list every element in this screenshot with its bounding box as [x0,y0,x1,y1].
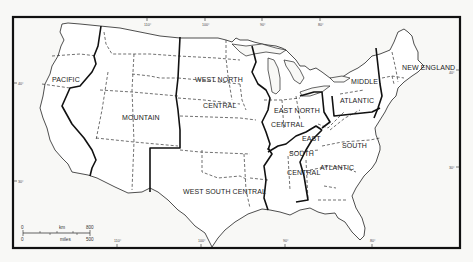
svg-text:30°: 30° [18,180,24,184]
svg-text:100°: 100° [202,23,210,27]
region-label-south-atlantic-2: ATLANTIC [320,164,354,171]
region-label-west-north-central-2: CENTRAL [203,102,236,109]
svg-text:80°: 80° [318,23,324,27]
svg-text:0: 0 [21,237,24,242]
svg-text:110°: 110° [114,239,122,243]
us-outline [40,23,424,247]
us-census-divisions-map: PACIFIC MOUNTAIN WEST NORTH CENTRAL WEST… [0,0,473,262]
scale-bar: 0 km 800 0 miles 500 [21,225,94,242]
svg-text:0: 0 [21,225,24,230]
left-ticks: 40° 30° [13,82,24,184]
region-label-new-england: NEW ENGLAND [402,64,455,71]
svg-text:110°: 110° [144,23,152,27]
bottom-ticks: 110° 100° 90° 80° [114,239,376,248]
svg-text:100°: 100° [198,239,206,243]
region-label-middle-atlantic-2: ATLANTIC [340,97,374,104]
region-label-pacific: PACIFIC [52,76,80,83]
region-label-west-south-central: WEST SOUTH CENTRAL [183,188,266,195]
svg-text:km: km [59,225,65,230]
right-ticks: 40° 30° [449,70,460,170]
region-label-mountain: MOUNTAIN [122,114,160,121]
svg-text:90°: 90° [260,23,266,27]
region-label-east-north-central-2: CENTRAL [271,121,304,128]
svg-text:90°: 90° [283,239,289,243]
svg-text:40°: 40° [449,71,455,75]
svg-text:500: 500 [86,237,94,242]
top-ticks: 110° 100° 90° 80° [144,17,324,27]
region-label-east-south-central-1: EAST [302,135,321,142]
region-label-middle-atlantic-1: MIDDLE [351,78,378,85]
svg-text:800: 800 [86,225,94,230]
region-label-east-south-central-3: CENTRAL [287,169,320,176]
region-label-east-south-central-2: SOUTH [289,150,314,157]
region-label-west-north-central-1: WEST NORTH [195,76,243,83]
svg-text:30°: 30° [449,166,455,170]
svg-text:miles: miles [60,237,71,242]
region-label-east-north-central-1: EAST NORTH [274,107,320,114]
region-label-south-atlantic-1: SOUTH [342,142,367,149]
svg-text:40°: 40° [18,82,24,86]
svg-text:80°: 80° [370,239,376,243]
